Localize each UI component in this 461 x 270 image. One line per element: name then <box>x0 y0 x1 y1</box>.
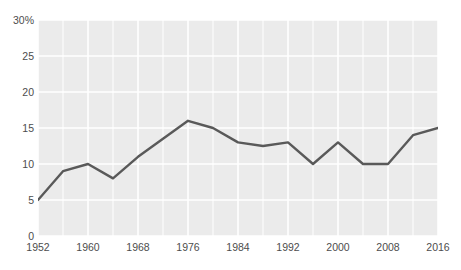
line-chart: 051015202530% 19521960196819761984199220… <box>0 0 461 270</box>
x-tick-label: 1992 <box>276 242 299 253</box>
x-tick-label: 2016 <box>426 242 449 253</box>
x-tick-label: 2008 <box>376 242 399 253</box>
y-tick-label: 15 <box>0 123 34 134</box>
y-tick-label: 5 <box>0 195 34 206</box>
y-tick-label: 10 <box>0 159 34 170</box>
series-polyline <box>38 121 438 200</box>
data-line-series <box>38 20 438 236</box>
y-tick-label: 25 <box>0 51 34 62</box>
x-tick-label: 2000 <box>326 242 349 253</box>
y-tick-label: 20 <box>0 87 34 98</box>
y-axis: 051015202530% <box>0 0 34 270</box>
x-tick-label: 1952 <box>26 242 49 253</box>
x-tick-label: 1976 <box>176 242 199 253</box>
y-tick-label: 30% <box>0 15 34 26</box>
x-tick-label: 1968 <box>126 242 149 253</box>
plot-area <box>38 20 438 236</box>
x-tick-label: 1984 <box>226 242 249 253</box>
y-tick-label: 0 <box>0 231 34 242</box>
x-tick-label: 1960 <box>76 242 99 253</box>
